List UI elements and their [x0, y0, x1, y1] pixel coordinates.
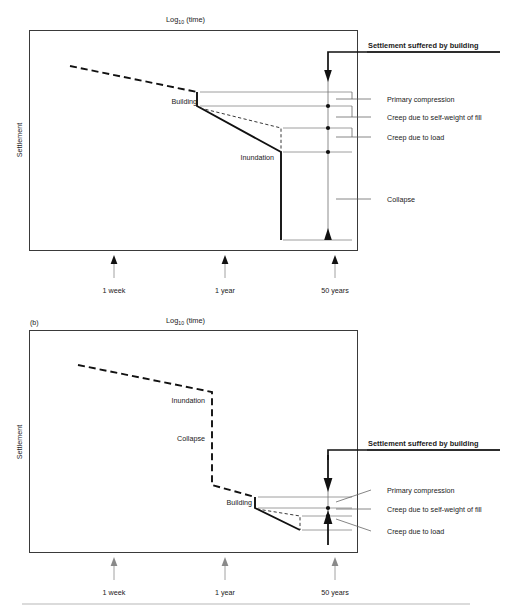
time-text-b: (time)	[184, 316, 205, 325]
panel-a-curve-pre-building	[70, 66, 197, 92]
panel-b-callout-text-1: Creep due to self-weight of fill	[387, 505, 482, 514]
panel-a-callout-text-1: Creep due to self-weight of fill	[387, 113, 482, 122]
panel-a-callout-text-0: Primary compression	[387, 95, 455, 104]
panel-b-callout-text-2: Creep due to load	[387, 527, 444, 536]
panel-a-leader-lines	[200, 92, 352, 240]
panel-a-label-building: Building	[171, 97, 197, 106]
panel-b-leader-lines	[258, 497, 352, 530]
panel-b-x-tick-label-1: 1 year	[215, 588, 236, 597]
panel-b-x-tick-label-2: 50 years	[321, 588, 349, 597]
panel-a-callout-text-3: Collapse	[387, 195, 415, 204]
panel-b-settlement-measure-axis	[324, 455, 333, 545]
panel-a-curve-post-building	[197, 92, 281, 240]
panel-b-y-axis-label: Settlement	[15, 425, 24, 459]
panel-a-x-tick-1week: 1 week	[103, 255, 126, 295]
log-text: Log	[166, 15, 178, 24]
panel-a-callout-creep-load: Creep due to load	[336, 128, 444, 142]
panel-a-callout-collapse: Collapse	[336, 195, 415, 204]
panel-b-label-collapse: Collapse	[177, 434, 205, 443]
panel-a-x-tick-label-2: 50 years	[321, 286, 349, 295]
svg-text:Log10 (time): Log10 (time)	[166, 316, 205, 326]
panel-a-bracket-label: Settlement suffered by building	[368, 41, 479, 50]
panel-b-label: (b)	[30, 319, 39, 327]
panel-a-plot-frame	[30, 31, 358, 251]
panel-b-x-tick-1year: 1 year	[215, 557, 236, 597]
panel-b-settlement-chart: (b) Log10 (time) Settlement	[0, 300, 512, 607]
log-text-b: Log	[166, 316, 178, 325]
panel-b-callout-text-0: Primary compression	[387, 486, 455, 495]
svg-text:Log10 (time): Log10 (time)	[166, 15, 205, 25]
panel-b-label-inundation: Inundation	[171, 396, 205, 405]
panel-b-x-tick-1week: 1 week	[103, 557, 126, 597]
panel-a-label-inundation: Inundation	[240, 153, 274, 162]
panel-a-x-tick-1year: 1 year	[215, 255, 236, 295]
panel-a-callout-primary-compression: Primary compression	[336, 92, 455, 104]
panel-a-callout-text-2: Creep due to load	[387, 133, 444, 142]
panel-b-top-axis-title: Log10 (time)	[166, 316, 205, 326]
panel-b-label-building: Building	[226, 498, 252, 507]
figure-root: Log10 (time) Settlement	[0, 0, 512, 607]
panel-a-settlement-bracket	[328, 52, 500, 70]
panel-b-curve-post-building	[255, 497, 300, 530]
panel-b-settlement-bracket	[328, 450, 500, 460]
panel-a-x-tick-50years: 50 years	[321, 255, 349, 295]
panel-b-callout-creep-load: Creep due to load	[336, 519, 444, 536]
panel-b-callout-primary-compression: Primary compression	[336, 486, 455, 502]
time-text: (time)	[184, 15, 205, 24]
panel-a-top-axis-title: Log10 (time)	[166, 15, 205, 25]
panel-b-bracket-label: Settlement suffered by building	[368, 439, 479, 448]
panel-a-settlement-measure-axis	[324, 70, 332, 240]
panel-b-curve-pre-building	[78, 365, 255, 497]
panel-a-settlement-chart: Log10 (time) Settlement	[0, 0, 512, 300]
panel-b-x-tick-50years: 50 years	[321, 557, 349, 597]
panel-b-x-tick-label-0: 1 week	[103, 588, 126, 597]
panel-a-x-tick-label-0: 1 week	[103, 286, 126, 295]
panel-a-x-tick-label-1: 1 year	[215, 286, 236, 295]
panel-a-y-axis-label: Settlement	[15, 123, 24, 157]
